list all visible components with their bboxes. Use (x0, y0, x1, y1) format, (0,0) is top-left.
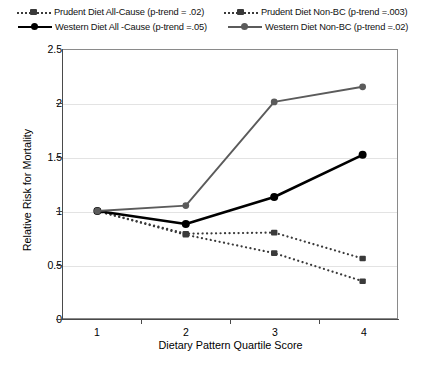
data-point (183, 232, 189, 238)
data-point (359, 256, 365, 262)
data-point (359, 278, 365, 284)
data-point (271, 99, 278, 106)
series-3 (93, 151, 366, 228)
data-point (271, 250, 277, 256)
series-4 (94, 83, 366, 214)
data-point (94, 208, 101, 215)
series-layer (0, 0, 426, 366)
data-point (271, 230, 277, 236)
data-point (359, 151, 367, 159)
series-2 (94, 208, 366, 284)
data-point (270, 193, 278, 201)
data-point (182, 220, 190, 228)
chart-root: Prudent Diet All-Cause (p-trend = .02) P… (0, 0, 426, 366)
data-point (182, 202, 189, 209)
data-point (359, 83, 366, 90)
